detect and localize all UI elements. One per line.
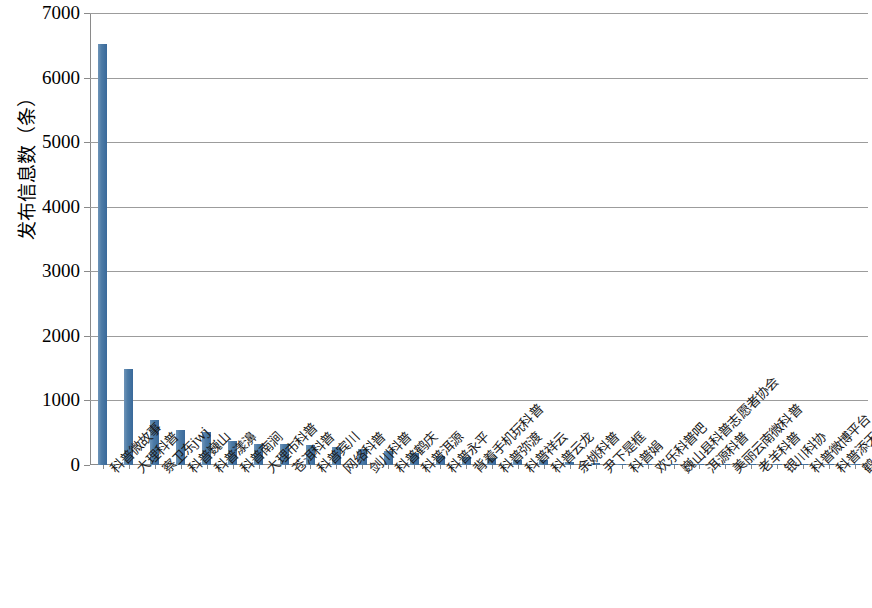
x-axis-label: 网络科普 xyxy=(341,466,351,476)
x-axis-label: 苍洱科普 xyxy=(290,466,300,476)
x-axis-tick xyxy=(544,465,545,469)
y-axis-tick-label: 3000 xyxy=(42,260,80,282)
x-axis-tick xyxy=(777,465,778,469)
y-axis-tick-label: 7000 xyxy=(42,2,80,24)
x-axis-tick xyxy=(648,465,649,469)
y-axis-tick-label: 5000 xyxy=(42,131,80,153)
x-axis-tick xyxy=(310,465,311,469)
x-axis-tick xyxy=(492,465,493,469)
x-axis-tick xyxy=(207,465,208,469)
x-axis-label: 科普微博平台 xyxy=(808,466,818,476)
x-axis-tick xyxy=(803,465,804,469)
x-axis-label: 科普宾川 xyxy=(315,466,325,476)
x-axis-label: 余姚科普 xyxy=(575,466,585,476)
x-axis-tick xyxy=(518,465,519,469)
x-axis-label: 剑川科普 xyxy=(367,466,377,476)
x-axis-tick xyxy=(233,465,234,469)
y-axis-tick-label: 2000 xyxy=(42,325,80,347)
x-axis-tick xyxy=(414,465,415,469)
x-axis-label: 科普弥渡 xyxy=(497,466,507,476)
x-axis-tick xyxy=(596,465,597,469)
x-axis-tick xyxy=(855,465,856,469)
x-axis-tick xyxy=(388,465,389,469)
x-axis-label: 科普微故事 xyxy=(108,466,118,476)
bar xyxy=(98,44,107,465)
x-axis-tick xyxy=(829,465,830,469)
x-axis-tick xyxy=(622,465,623,469)
x-axis-label: 察卫东jwj xyxy=(160,466,170,476)
x-axis-labels: 科普微故事大理科普察卫东jwj科普巍山科普漾濞科普南涧大理市科普苍洱科普科普宾川… xyxy=(90,466,868,608)
x-axis-tick xyxy=(129,465,130,469)
x-axis-label: 欢乐科普吧 xyxy=(653,466,663,476)
x-axis-tick xyxy=(362,465,363,469)
x-axis-label: 科普巍山 xyxy=(186,466,196,476)
x-axis-label: 尹下是框 xyxy=(601,466,611,476)
x-axis-tick xyxy=(155,465,156,469)
bar-chart: 发布信息数（条） 01000200030004000500060007000 科… xyxy=(0,0,872,608)
x-axis-tick xyxy=(751,465,752,469)
x-axis-tick xyxy=(259,465,260,469)
x-axis-tick xyxy=(699,465,700,469)
x-axis-label: 科普鹤庆 xyxy=(393,466,403,476)
x-axis-tick xyxy=(674,465,675,469)
x-axis-tick xyxy=(440,465,441,469)
x-axis-tick xyxy=(103,465,104,469)
x-axis-tick xyxy=(285,465,286,469)
x-axis-label: 银川科协 xyxy=(782,466,792,476)
y-axis-tick-label: 4000 xyxy=(42,196,80,218)
x-axis-tick xyxy=(725,465,726,469)
x-axis-label: 科普漾濞 xyxy=(212,466,222,476)
x-axis-label: 科普云龙 xyxy=(549,466,559,476)
x-axis-label: 科普添天乐 xyxy=(834,466,844,476)
x-axis-label: 洱源科普 xyxy=(704,466,714,476)
x-axis-tick xyxy=(570,465,571,469)
x-axis-label: 科普洱源 xyxy=(419,466,429,476)
x-axis-label: 科普祥云 xyxy=(523,466,533,476)
y-axis-tick-label: 1000 xyxy=(42,389,80,411)
y-axis-tick-label: 6000 xyxy=(42,67,80,89)
x-axis-label: 大理市科普 xyxy=(264,466,274,476)
x-axis-tick xyxy=(336,465,337,469)
y-axis-title: 发布信息数（条） xyxy=(12,54,39,274)
x-axis-tick xyxy=(181,465,182,469)
x-axis-label: 背着手机玩科普 xyxy=(471,466,481,476)
x-axis-label: 科普娟 xyxy=(627,466,637,476)
x-axis-tick xyxy=(466,465,467,469)
x-axis-label: 鹤庆科普之光 xyxy=(860,466,870,476)
x-axis-label: 大理科普 xyxy=(134,466,144,476)
x-axis-label: 老羊科普 xyxy=(756,466,766,476)
x-axis-label: 美丽云南微科普 xyxy=(730,466,740,476)
x-axis-label: 巍山县科普志愿者协会 xyxy=(679,466,689,476)
x-axis-label: 科普永平 xyxy=(445,466,455,476)
y-axis-tick-label: 0 xyxy=(71,454,81,476)
x-axis-label: 科普南涧 xyxy=(238,466,248,476)
